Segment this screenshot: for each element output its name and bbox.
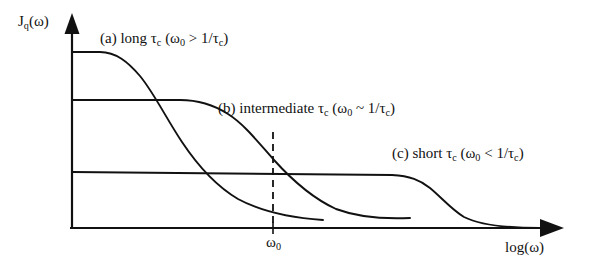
y-axis-label-subscript: q (24, 20, 29, 31)
y-axis-label: Jq(ω) (18, 14, 49, 29)
curve-a-annotation-prefix: (a) long τ (100, 30, 157, 46)
curve-c-annotation-omega-sub: 0 (475, 152, 480, 163)
y-axis-label-argument: (ω) (29, 13, 49, 29)
curve-c-short-tau (72, 172, 540, 228)
y-axis-label-main: J (18, 13, 24, 29)
curve-a-annotation-close: ) (223, 30, 228, 46)
curve-a-annotation-omega-sub: 0 (180, 37, 185, 48)
curve-a-long-tau (72, 52, 323, 220)
curve-b-annotation-relation: ~ 1/τ (352, 100, 385, 116)
curve-c-annotation-relation: < 1/τ (480, 145, 514, 161)
curve-c-annotation-tau-sub: c (452, 152, 457, 163)
curve-c-annotation-prefix: (c) short τ (392, 145, 452, 161)
curve-a-annotation-tau-sub: c (157, 37, 162, 48)
omega-zero-tick-label: ω0 (266, 235, 281, 250)
curve-a-annotation-paren: (ω (161, 30, 180, 46)
curve-a-annotation-relation: > 1/τ (185, 30, 219, 46)
plot-canvas (0, 0, 616, 267)
curve-c-annotation-close: ) (519, 145, 524, 161)
curve-b-annotation-close: ) (390, 100, 395, 116)
x-axis-label: log(ω) (505, 240, 544, 255)
curve-b-annotation-tau-sub: c (324, 107, 329, 118)
curve-c-annotation-paren: (ω (457, 145, 476, 161)
x-axis-arrowhead (540, 219, 564, 237)
curve-a-annotation: (a) long τc (ω0 > 1/τc) (100, 31, 228, 46)
curve-c-annotation: (c) short τc (ω0 < 1/τc) (392, 146, 524, 161)
curve-b-annotation-prefix: (b) intermediate τ (218, 100, 324, 116)
curve-b-annotation: (b) intermediate τc (ω0 ~ 1/τc) (218, 101, 395, 116)
curve-b-annotation-rel-sub: c (386, 107, 391, 118)
y-axis-arrowhead (65, 13, 80, 34)
curve-c-annotation-rel-sub: c (514, 152, 519, 163)
curve-a-annotation-rel-sub: c (219, 37, 224, 48)
curve-b-annotation-paren: (ω (329, 100, 348, 116)
omega-zero-symbol: ω (266, 234, 276, 250)
curve-b-annotation-omega-sub: 0 (347, 107, 352, 118)
omega-zero-subscript: 0 (276, 241, 281, 252)
journal-spectral-density-figure: Jq(ω) log(ω) ω0 (a) long τc (ω0 > 1/τc) … (0, 0, 616, 267)
